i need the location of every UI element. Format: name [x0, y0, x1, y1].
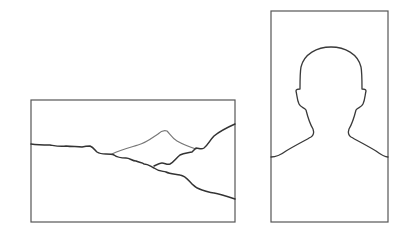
portrait-panel: [271, 11, 388, 222]
landscape-panel: [31, 100, 235, 222]
portrait-frame: [271, 11, 388, 222]
format-diagram: [0, 0, 414, 239]
